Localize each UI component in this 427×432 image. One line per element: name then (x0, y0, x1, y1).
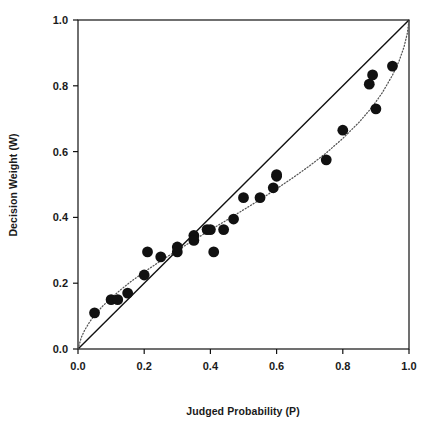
x-tick-label: 1.0 (401, 360, 416, 372)
x-tick-label: 0.2 (137, 360, 152, 372)
data-point (89, 307, 100, 318)
x-tick-label: 0.4 (203, 360, 219, 372)
y-tick-label: 0.4 (53, 211, 69, 223)
data-point (205, 224, 216, 235)
data-point (255, 192, 266, 203)
data-point (271, 169, 282, 180)
x-tick-label: 0.8 (335, 360, 350, 372)
data-point (172, 242, 183, 253)
data-point (122, 288, 133, 299)
y-tick-label: 0.8 (53, 80, 68, 92)
x-tick-label: 0.0 (70, 360, 85, 372)
data-point (387, 61, 398, 72)
chart-figure: 0.00.20.40.60.81.0 0.00.20.40.60.81.0 Ju… (0, 0, 427, 432)
data-point (367, 70, 378, 81)
y-tick-label: 0.2 (53, 277, 68, 289)
data-point (228, 214, 239, 225)
scatter-plot: 0.00.20.40.60.81.0 0.00.20.40.60.81.0 Ju… (0, 0, 427, 432)
data-point (155, 251, 166, 262)
data-point (139, 270, 150, 281)
data-point (371, 103, 382, 114)
data-point (188, 235, 199, 246)
data-point (268, 182, 279, 193)
x-axis-title: Judged Probability (P) (186, 405, 300, 417)
y-tick-label: 0.0 (53, 343, 68, 355)
data-point (142, 247, 153, 258)
x-tick-label: 0.6 (269, 360, 284, 372)
data-point (218, 224, 229, 235)
y-tick-label: 1.0 (53, 14, 68, 26)
data-point (112, 294, 123, 305)
data-point (238, 192, 249, 203)
data-point (321, 154, 332, 165)
data-point (364, 79, 375, 90)
data-point (208, 247, 219, 258)
y-tick-label: 0.6 (53, 146, 68, 158)
data-point (337, 125, 348, 136)
y-axis-title: Decision Weight (W) (7, 133, 19, 236)
